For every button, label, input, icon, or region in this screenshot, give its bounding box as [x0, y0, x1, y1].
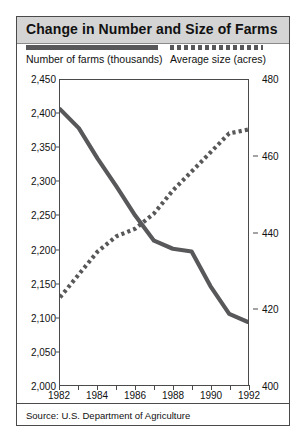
y-tick-left: 2,400 [31, 108, 56, 119]
y-tick-left: 2,350 [31, 142, 56, 153]
plot-area [59, 79, 249, 386]
x-tick: 1992 [238, 390, 260, 401]
y-tick-left: 2,250 [31, 210, 56, 221]
y-tickmark-right [253, 155, 258, 156]
dotted-line-swatch-icon [170, 45, 263, 50]
chart-area: 2,4502,4002,3502,3002,2502,2002,1502,100… [17, 73, 291, 403]
y-tick-right: 420 [262, 304, 279, 315]
y-tickmark-right [253, 232, 258, 233]
y-tick-left: 2,050 [31, 346, 56, 357]
y-tick-left: 2,200 [31, 244, 56, 255]
y-tick-left: 2,300 [31, 176, 56, 187]
series-line-size [60, 130, 248, 298]
legend-label-farms: Number of farms (thousands) [26, 53, 163, 65]
y-tick-right: 460 [262, 150, 279, 161]
page-title: Change in Number and Size of Farms [26, 21, 278, 37]
chart-card: Change in Number and Size of Farms Numbe… [16, 16, 290, 426]
y-axis-right: 480460440420400 [253, 79, 293, 386]
y-tick-right: 480 [262, 74, 279, 85]
x-tick: 1988 [162, 390, 184, 401]
y-tick-right: 440 [262, 227, 279, 238]
legend: Number of farms (thousands) Average size… [17, 45, 289, 73]
legend-item-size: Average size (acres) [170, 45, 266, 65]
y-tick-right: 400 [262, 381, 279, 392]
y-tick-left: 2,150 [31, 278, 56, 289]
y-axis-left: 2,4502,4002,3502,3002,2502,2002,1502,100… [17, 79, 56, 386]
solid-line-swatch-icon [26, 45, 158, 50]
y-tick-left: 2,450 [31, 74, 56, 85]
source-note: Source: U.S. Department of Agriculture [26, 410, 190, 421]
x-tick: 1986 [124, 390, 146, 401]
y-tickmark-right [253, 309, 258, 310]
x-tick: 1982 [48, 390, 70, 401]
chart-page: Change in Number and Size of Farms Numbe… [0, 0, 308, 448]
legend-label-size: Average size (acres) [170, 53, 266, 65]
source-divider [17, 403, 289, 404]
series-line-farms [60, 109, 248, 322]
title-band: Change in Number and Size of Farms [17, 17, 289, 44]
series-lines [60, 80, 248, 385]
x-tick: 1984 [86, 390, 108, 401]
x-axis: 198219841986198819901992 [59, 390, 249, 404]
legend-item-farms: Number of farms (thousands) [26, 45, 163, 65]
x-tick: 1990 [200, 390, 222, 401]
y-tick-left: 2,100 [31, 312, 56, 323]
